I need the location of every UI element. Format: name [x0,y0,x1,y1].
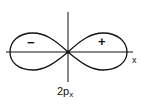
x-axis-label: x [132,56,137,65]
nucleus-node [66,50,69,53]
positive-sign-label: + [98,35,106,48]
orbital-label-main: 2p [57,85,69,97]
orbital-label-subscript: x [69,90,73,99]
negative-sign-label: − [27,36,35,49]
orbital-label: 2px [57,86,73,99]
